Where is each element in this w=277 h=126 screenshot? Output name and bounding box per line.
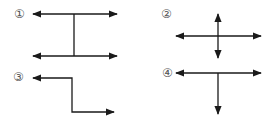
step-arrow — [33, 78, 114, 112]
diagram-1 — [33, 14, 117, 56]
diagram-4 — [176, 73, 261, 114]
label-4: ④ — [162, 67, 173, 79]
diagram-3 — [33, 78, 114, 112]
arrow-diagrams — [0, 0, 277, 126]
label-2: ② — [161, 8, 172, 20]
label-3: ③ — [13, 71, 24, 83]
diagram-2 — [176, 14, 261, 58]
label-1: ① — [14, 8, 25, 20]
